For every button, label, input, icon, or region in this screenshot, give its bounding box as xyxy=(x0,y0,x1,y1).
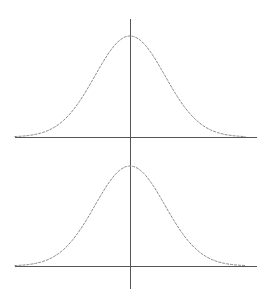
figure xyxy=(0,0,272,305)
plot-bottom xyxy=(15,150,258,289)
plot-top xyxy=(15,19,258,160)
